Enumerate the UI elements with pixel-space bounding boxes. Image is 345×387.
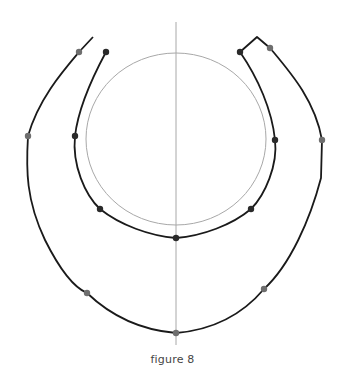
point-outer-lower-right (261, 286, 267, 292)
point-inner-lower-right (248, 206, 254, 212)
point-outer-lower-left (84, 290, 90, 296)
outer-curve (27, 37, 322, 333)
figure-caption: figure 8 (0, 353, 345, 366)
point-inner-top-left (103, 49, 109, 55)
point-outer-top-right (267, 45, 273, 51)
point-outer-mid-right (319, 137, 325, 143)
point-outer-bottom (173, 330, 179, 336)
point-inner-top-right (237, 49, 243, 55)
point-inner-lower-left (97, 206, 103, 212)
point-outer-mid-left (25, 133, 31, 139)
point-inner-mid-left (72, 133, 78, 139)
point-outer-top-left (76, 49, 82, 55)
horseshoe-diagram (0, 0, 345, 387)
inner-curve (75, 52, 276, 238)
control-points (25, 45, 325, 336)
point-inner-mid-right (272, 137, 278, 143)
point-inner-bottom (173, 235, 179, 241)
